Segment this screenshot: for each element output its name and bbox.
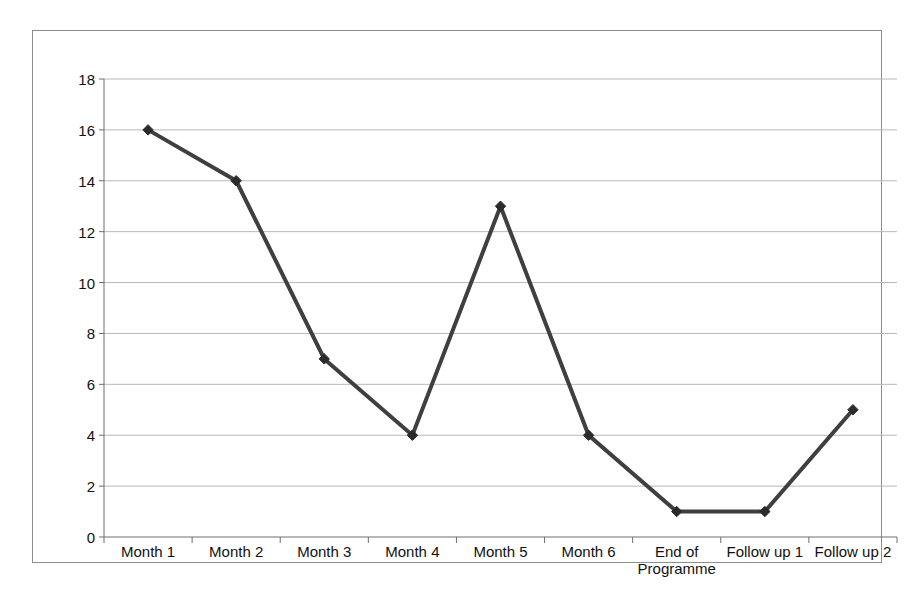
y-tick-label: 16: [78, 122, 95, 137]
x-tick-label-line: End of: [638, 543, 716, 560]
x-tick-label-line: Month 5: [473, 543, 527, 560]
y-tick-label: 10: [78, 275, 95, 290]
x-tick-label-line: Month 3: [297, 543, 351, 560]
x-tick-label: Month 6: [562, 543, 616, 560]
y-tick-label: 0: [87, 530, 95, 545]
x-tick-label: Month 1: [121, 543, 175, 560]
y-tick-label: 8: [87, 326, 95, 341]
y-tick-label: 4: [87, 428, 95, 443]
y-tick-label: 14: [78, 173, 95, 188]
data-point-marker: [495, 201, 505, 211]
x-tick-label: Month 4: [385, 543, 439, 560]
line-chart: 024681012141618 Month 1Month 2Month 3Mon…: [0, 0, 910, 591]
y-tick-label: 2: [87, 479, 95, 494]
chart-frame: 024681012141618 Month 1Month 2Month 3Mon…: [32, 30, 882, 563]
x-tick-label: Month 2: [209, 543, 263, 560]
x-tick-label: End ofProgramme: [638, 543, 716, 577]
x-tick-label: Month 5: [473, 543, 527, 560]
x-axis-tick-labels: Month 1Month 2Month 3Month 4Month 5Month…: [104, 543, 897, 589]
series-line: [148, 130, 853, 512]
y-tick-label: 12: [78, 224, 95, 239]
x-tick-label-line: Month 4: [385, 543, 439, 560]
x-tick-label-line: Follow up 1: [726, 543, 803, 560]
x-tick-label-line: Month 6: [562, 543, 616, 560]
x-tick-label: Month 3: [297, 543, 351, 560]
x-tick-label: Follow up 2: [815, 543, 892, 560]
x-tick-label-line: Month 2: [209, 543, 263, 560]
y-tick-label: 18: [78, 72, 95, 87]
data-series: [104, 79, 897, 537]
x-tick-label-line: Follow up 2: [815, 543, 892, 560]
x-tick-label-line: Programme: [638, 560, 716, 577]
x-tick-label: Follow up 1: [726, 543, 803, 560]
y-tick-label: 6: [87, 377, 95, 392]
x-tick-label-line: Month 1: [121, 543, 175, 560]
y-axis-tick-labels: 024681012141618: [67, 79, 95, 537]
plot-area: [104, 79, 897, 537]
